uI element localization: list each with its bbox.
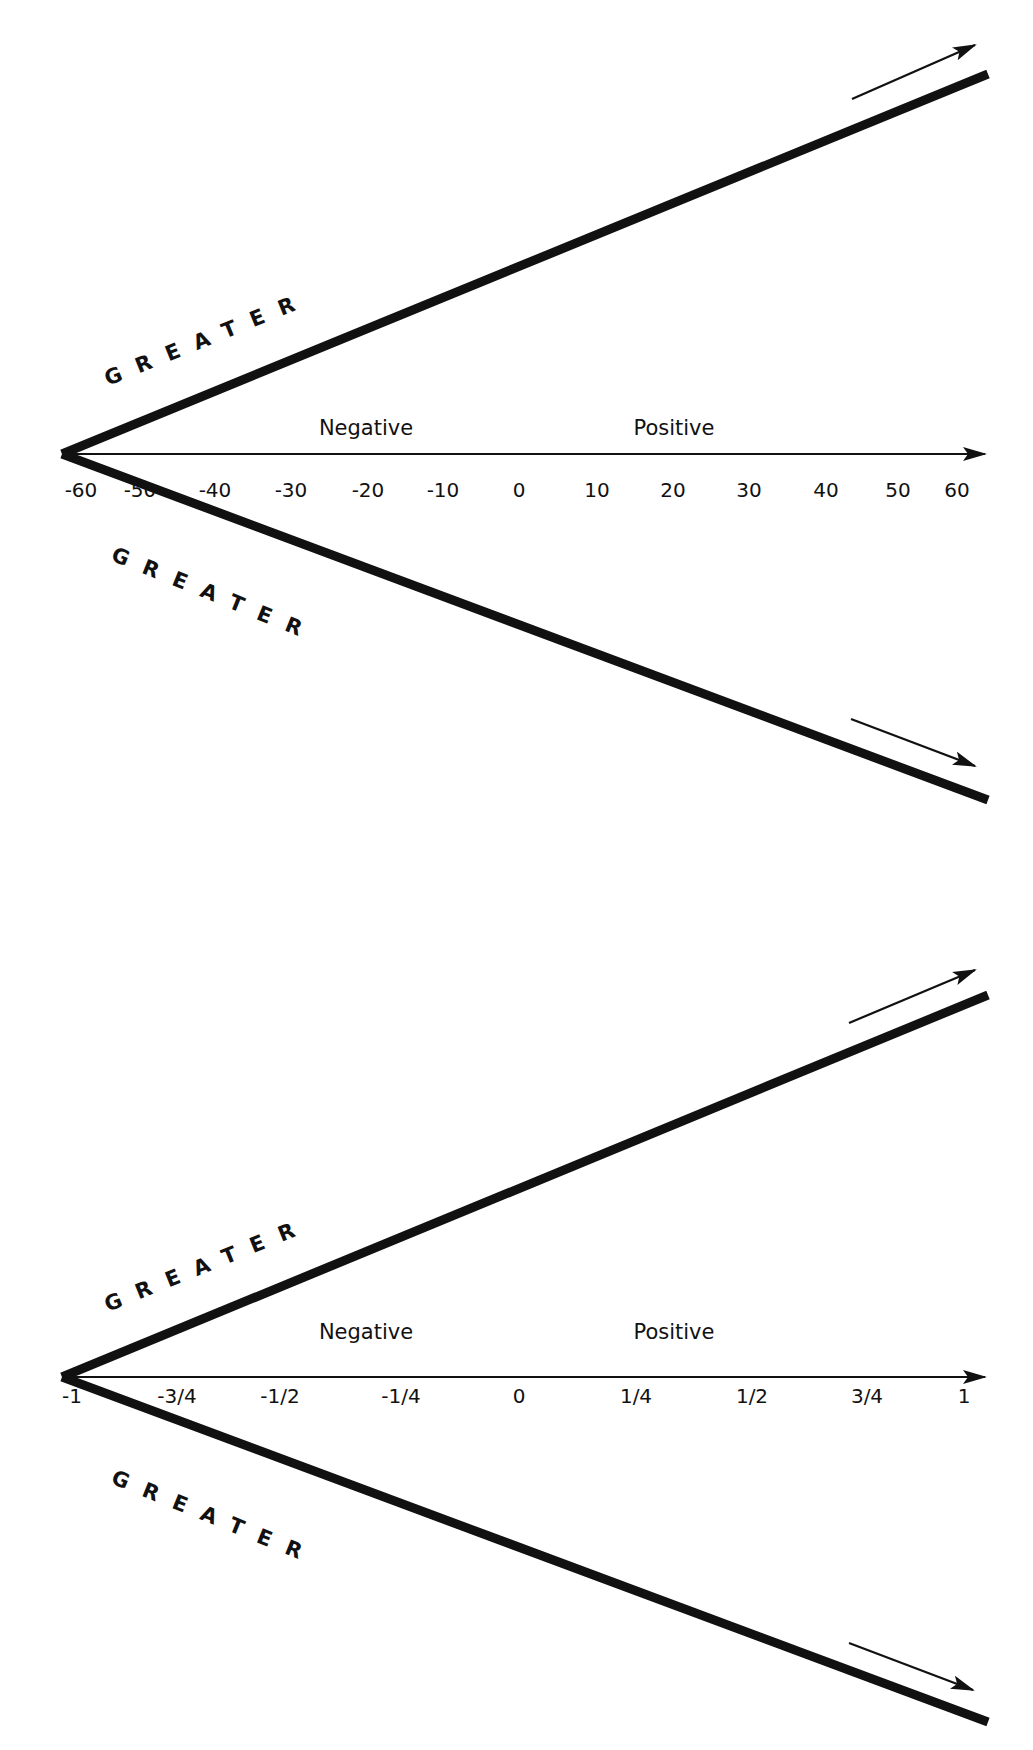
tick-labels: -60 -50 -40 -30 -20 -10 0 10 20 30 40 50… bbox=[65, 478, 970, 502]
tick-label: -60 bbox=[65, 478, 98, 502]
tick-label: -1/2 bbox=[260, 1384, 299, 1408]
tick-label: 10 bbox=[584, 478, 609, 502]
tick-label: 1/2 bbox=[736, 1384, 768, 1408]
tick-label: 30 bbox=[736, 478, 761, 502]
tick-label: -3/4 bbox=[157, 1384, 196, 1408]
diagram-fraction-scale: Negative Positive GREATER GREATER -1 -3/… bbox=[62, 970, 988, 1722]
tick-label: -1 bbox=[62, 1384, 82, 1408]
lower-direction-arrow bbox=[849, 1643, 973, 1690]
tick-label: -50 bbox=[124, 478, 157, 502]
upper-greater-label: GREATER bbox=[101, 286, 313, 390]
upper-greater-line bbox=[62, 74, 988, 454]
tick-labels: -1 -3/4 -1/2 -1/4 0 1/4 1/2 3/4 1 bbox=[62, 1384, 970, 1408]
lower-greater-line bbox=[62, 1377, 988, 1722]
lower-greater-line bbox=[62, 454, 988, 800]
tick-label: 1 bbox=[958, 1384, 971, 1408]
tick-label: 60 bbox=[944, 478, 969, 502]
tick-label: 20 bbox=[660, 478, 685, 502]
upper-greater-label: GREATER bbox=[101, 1212, 313, 1316]
tick-label: 1/4 bbox=[620, 1384, 652, 1408]
positive-label: Positive bbox=[634, 416, 715, 440]
lower-greater-label: GREATER bbox=[108, 1465, 320, 1569]
tick-label: -30 bbox=[275, 478, 308, 502]
tick-label: -10 bbox=[427, 478, 460, 502]
diagram-integer-scale: Negative Positive GREATER GREATER -60 -5… bbox=[62, 45, 988, 800]
upper-greater-line bbox=[62, 995, 988, 1377]
tick-label: 0 bbox=[513, 478, 526, 502]
upper-direction-arrow bbox=[849, 970, 975, 1023]
tick-label: -40 bbox=[199, 478, 232, 502]
tick-label: 0 bbox=[513, 1384, 526, 1408]
negative-label: Negative bbox=[319, 1320, 413, 1344]
tick-label: -1/4 bbox=[381, 1384, 420, 1408]
negative-label: Negative bbox=[319, 416, 413, 440]
tick-label: -20 bbox=[352, 478, 385, 502]
positive-label: Positive bbox=[634, 1320, 715, 1344]
lower-greater-label: GREATER bbox=[108, 542, 320, 646]
tick-label: 3/4 bbox=[851, 1384, 883, 1408]
tick-label: 50 bbox=[885, 478, 910, 502]
tick-label: 40 bbox=[813, 478, 838, 502]
